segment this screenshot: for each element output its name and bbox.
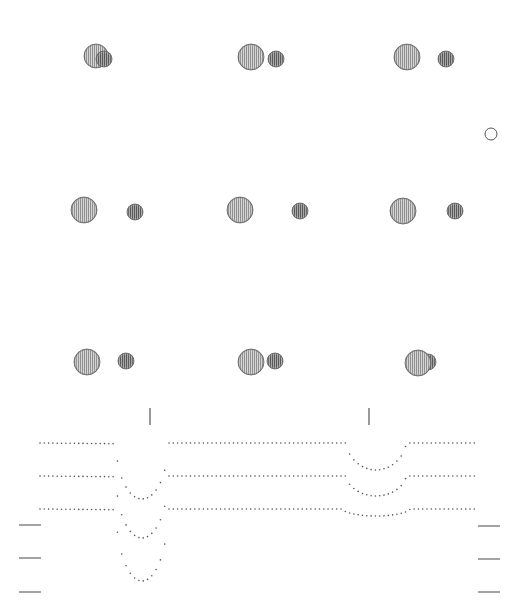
binary-phase-1 — [238, 44, 284, 70]
light-curves — [39, 442, 475, 582]
binary-phase-2 — [394, 44, 454, 70]
secondary-star-icon — [438, 51, 454, 67]
primary-star-icon — [394, 44, 420, 70]
primary-star-icon — [405, 350, 431, 376]
binary-star-figure — [0, 0, 524, 614]
primary-star-icon — [227, 197, 253, 223]
binary-phase-0 — [84, 44, 112, 68]
secondary-star-icon — [118, 353, 134, 369]
binary-phase-7 — [238, 349, 283, 375]
curve-2 — [39, 475, 475, 539]
curve-1 — [39, 442, 475, 500]
binary-phase-3 — [71, 197, 143, 223]
secondary-star-icon — [292, 203, 308, 219]
secondary-star-icon — [127, 204, 143, 220]
primary-star-icon — [74, 349, 100, 375]
secondary-star-icon — [96, 51, 112, 67]
curve-3 — [39, 508, 475, 582]
primary-star-icon — [71, 197, 97, 223]
eclipse-marker-lines — [150, 408, 369, 425]
binary-phase-6 — [74, 349, 134, 375]
primary-star-icon — [390, 198, 416, 224]
primary-star-icon — [238, 349, 264, 375]
binary-phase-4 — [227, 197, 308, 223]
scale-tick-marks — [19, 525, 500, 592]
binary-phase-diagrams — [71, 44, 463, 376]
binary-phase-5 — [390, 198, 463, 224]
secondary-star-icon — [267, 353, 283, 369]
primary-star-icon — [238, 44, 264, 70]
open-circle-icon — [485, 128, 497, 140]
secondary-star-icon — [268, 51, 284, 67]
orbit-marker-circle — [485, 128, 497, 140]
secondary-star-icon — [447, 203, 463, 219]
binary-phase-8 — [405, 350, 436, 376]
